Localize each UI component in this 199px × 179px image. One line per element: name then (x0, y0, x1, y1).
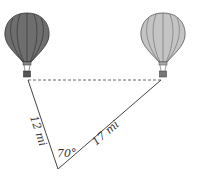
angle-label: 70° (57, 147, 77, 160)
right-side-label: 17 mi (89, 118, 121, 148)
left-side-label: 12 mi (27, 114, 49, 148)
left-balloon-icon (5, 13, 49, 77)
diagram-canvas: 12 mi 17 mi 70° (0, 0, 199, 179)
right-balloon-icon (141, 13, 185, 77)
